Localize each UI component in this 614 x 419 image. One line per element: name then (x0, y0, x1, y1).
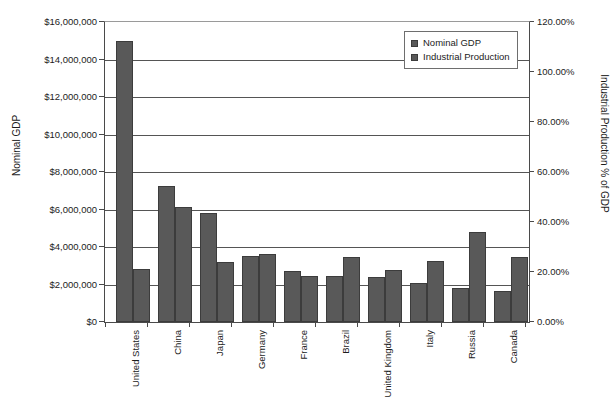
category-label-brazil: Brazil (341, 330, 351, 354)
bottom-tick-mark (189, 322, 190, 327)
bar-nominal-gdp (242, 256, 259, 322)
gridline (105, 172, 529, 173)
bottom-tick-mark (483, 322, 484, 327)
left-tick-label: $6,000,000 (0, 205, 97, 215)
bar-industrial-production (427, 261, 444, 322)
left-axis-title: Nominal GDP (11, 86, 22, 206)
category-label-germany: Germany (257, 330, 267, 369)
bar-nominal-gdp (368, 277, 385, 322)
bar-nominal-gdp (200, 213, 217, 322)
bar-industrial-production (259, 254, 276, 322)
bar-nominal-gdp (410, 283, 427, 322)
category-label-united-kingdom: United Kingdom (383, 330, 393, 398)
category-label-russia: Russia (467, 330, 477, 359)
chart-legend: Nominal GDP Industrial Production (404, 31, 518, 69)
bar-industrial-production (133, 269, 150, 322)
left-tick-label: $10,000,000 (0, 130, 97, 140)
category-label-france: France (299, 330, 309, 360)
right-tick-label: 100.00% (537, 67, 607, 77)
left-tick-label: $4,000,000 (0, 242, 97, 252)
category-label-italy: Italy (425, 330, 435, 347)
left-tick-label: $2,000,000 (0, 280, 97, 290)
category-label-united-states: United States (131, 330, 141, 387)
category-label-china: China (173, 330, 183, 355)
bar-industrial-production (385, 270, 402, 322)
bar-nominal-gdp (326, 276, 343, 322)
gridline (105, 135, 529, 136)
gridline (105, 97, 529, 98)
bar-industrial-production (469, 232, 486, 322)
legend-swatch-icon (411, 54, 418, 61)
bottom-tick-mark (525, 322, 526, 327)
right-tick-label: 40.00% (537, 217, 607, 227)
bottom-tick-mark (105, 322, 106, 327)
bottom-tick-mark (399, 322, 400, 327)
bar-nominal-gdp (494, 291, 511, 322)
bar-industrial-production (343, 257, 360, 322)
bottom-tick-mark (315, 322, 316, 327)
right-tick-label: 120.00% (537, 17, 607, 27)
left-tick-label: $12,000,000 (0, 92, 97, 102)
legend-label: Industrial Production (423, 52, 510, 62)
category-label-japan: Japan (215, 330, 225, 356)
left-tick-label: $0 (0, 317, 97, 327)
right-tick-label: 60.00% (537, 167, 607, 177)
bottom-tick-mark (147, 322, 148, 327)
bar-industrial-production (511, 257, 528, 322)
bottom-tick-mark (231, 322, 232, 327)
bar-nominal-gdp (452, 288, 469, 322)
bottom-tick-mark (273, 322, 274, 327)
bar-industrial-production (175, 207, 192, 322)
nominal-gdp-industrial-production-chart: Nominal GDP Industrial Production % of G… (0, 0, 614, 419)
bottom-tick-mark (441, 322, 442, 327)
right-axis-title: Industrial Production % of GDP (599, 49, 610, 239)
legend-swatch-icon (411, 40, 418, 47)
right-tick-label: 80.00% (537, 117, 607, 127)
left-tick-label: $16,000,000 (0, 17, 97, 27)
legend-item-nominal-gdp: Nominal GDP (411, 36, 510, 50)
right-tick-label: 0.00% (537, 317, 607, 327)
left-tick-label: $14,000,000 (0, 55, 97, 65)
bar-industrial-production (217, 262, 234, 322)
bottom-tick-mark (357, 322, 358, 327)
bar-nominal-gdp (158, 186, 175, 322)
bar-industrial-production (301, 276, 318, 322)
category-label-canada: Canada (509, 330, 519, 363)
bar-nominal-gdp (116, 41, 133, 322)
legend-item-industrial-production: Industrial Production (411, 50, 510, 64)
bar-nominal-gdp (284, 271, 301, 322)
legend-label: Nominal GDP (423, 38, 481, 48)
right-tick-label: 20.00% (537, 267, 607, 277)
left-tick-label: $8,000,000 (0, 167, 97, 177)
